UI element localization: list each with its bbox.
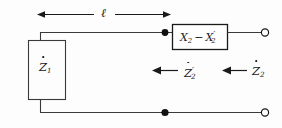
length-arrow-left-head — [37, 11, 45, 17]
z2-symbol: Z — [252, 64, 260, 78]
z2-overdot-icon — [255, 60, 257, 62]
impedance-z1-label: Z1 — [39, 62, 52, 74]
length-label: ℓ — [101, 7, 106, 19]
z2-prime-symbol-group: Z — [184, 68, 192, 80]
z2-prime-overdot-icon — [187, 62, 189, 64]
impedance-z2-label: Z2 — [252, 66, 265, 78]
series-element-minus-operator: − — [192, 31, 205, 44]
impedance-z2-prime-label: Z′2 — [184, 66, 196, 80]
z1-symbol: Z — [39, 60, 47, 74]
series-element-label: X2−X′2 — [180, 31, 216, 44]
z1-subscript: 1 — [47, 66, 52, 75]
z2-symbol-group: Z — [252, 66, 260, 78]
z2-arrow — [222, 67, 247, 75]
z1-overdot-icon — [42, 56, 44, 58]
x2-prime-subscript: 2 — [211, 37, 215, 45]
z2-prime-arrow — [152, 67, 178, 75]
x2-symbol: X — [180, 31, 188, 44]
z2-prime-symbol: Z — [184, 66, 192, 80]
bottom-right-terminal-circle — [261, 109, 268, 116]
bottom-junction-dot — [161, 109, 168, 116]
circuit-diagram-figure: ℓ Z1 X2−X′2 Z′2 Z2 — [0, 0, 282, 128]
z1-symbol-group: Z — [39, 62, 47, 74]
z2-prime-arrow-head — [152, 67, 161, 75]
z2-subscript: 2 — [260, 70, 265, 79]
top-junction-dot — [162, 29, 169, 36]
bottom-conductor — [40, 100, 261, 113]
top-conductor — [40, 33, 172, 41]
length-arrow-right-head — [163, 11, 171, 17]
z2-arrow-head — [222, 67, 231, 75]
top-right-terminal-circle — [261, 29, 268, 36]
